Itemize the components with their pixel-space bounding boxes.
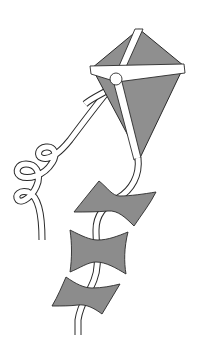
bow-upper (74, 181, 156, 226)
kite-svg (0, 0, 204, 338)
kite-sail (92, 29, 184, 158)
kite-bows (52, 181, 156, 314)
kite-illustration (0, 0, 204, 338)
bow-lower (52, 277, 120, 314)
kite-knot (110, 73, 122, 85)
